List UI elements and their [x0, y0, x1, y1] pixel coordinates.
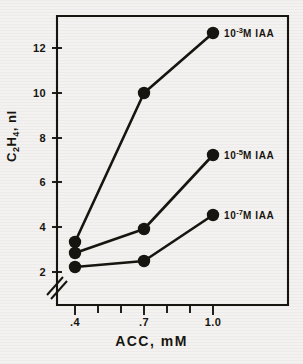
series-line-10-7	[69, 209, 219, 273]
series-label-10-7-exponent: -7	[236, 208, 243, 217]
x-tick-label-04: .4	[60, 316, 90, 328]
data-point	[207, 209, 219, 221]
data-point	[138, 255, 150, 267]
y-tick-label-10: 10	[26, 87, 46, 99]
y-tick-label-2: 2	[26, 266, 46, 278]
x-tick-label-07: .7	[129, 316, 159, 328]
series-label-10-3-mantissa: 10	[224, 28, 236, 39]
series-label-10-5-rest: M IAA	[243, 150, 274, 161]
y-axis-title-sub4: 4	[11, 131, 21, 137]
x-axis-ticks	[75, 305, 213, 315]
series-label-10-5-mantissa: 10	[224, 150, 236, 161]
x-tick-label-10: 1.0	[198, 316, 228, 328]
data-point	[69, 247, 81, 259]
data-point	[69, 236, 81, 248]
series-label-10-3-exponent: -3	[236, 26, 243, 35]
data-point	[138, 223, 150, 235]
x-axis-title: ACC, mM	[0, 333, 303, 349]
y-tick-label-8: 8	[26, 132, 46, 144]
y-axis-title-c: C	[4, 152, 19, 162]
data-point	[69, 261, 81, 273]
y-axis-title: C2H4, nl	[4, 52, 19, 162]
series-line-10-3	[69, 27, 219, 248]
series-label-10-3-rest: M IAA	[243, 28, 274, 39]
y-tick-label-6: 6	[26, 176, 46, 188]
y-axis-title-units: , nl	[4, 110, 19, 131]
y-axis-title-h: H	[4, 137, 19, 147]
y-tick-label-4: 4	[26, 221, 46, 233]
series-label-10-3: 10-3M IAA	[224, 26, 274, 39]
series-label-10-7: 10-7M IAA	[224, 208, 274, 221]
y-tick-label-12: 12	[26, 42, 46, 54]
series-label-10-5: 10-5M IAA	[224, 148, 274, 161]
data-point	[138, 87, 150, 99]
figure-panel: 12 10 8 6 4 2 .4 .7 1.0 10-3M IAA 10-5M …	[0, 0, 303, 364]
series-label-10-5-exponent: -5	[236, 148, 243, 157]
series-label-10-7-rest: M IAA	[243, 210, 274, 221]
series-label-10-7-mantissa: 10	[224, 210, 236, 221]
data-point	[207, 27, 219, 39]
y-axis-title-sub2: 2	[11, 147, 21, 153]
data-point	[207, 149, 219, 161]
